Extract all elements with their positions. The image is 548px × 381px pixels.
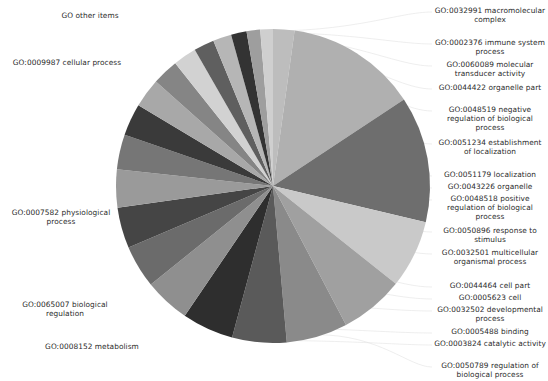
pie-label: GO:0032501 multicellular organismal proc…	[434, 248, 546, 266]
pie-label: GO:0048518 positive regulation of biolog…	[434, 194, 546, 222]
pie-label: GO other items	[42, 11, 138, 20]
pie-label: GO:0048519 negative regulation of biolog…	[434, 105, 546, 133]
pie-label: GO:0044422 organelle part	[434, 83, 546, 92]
pie-chart-page: GO other itemsGO:0009987 cellular proces…	[0, 0, 548, 381]
pie-label: GO:0043226 organelle	[434, 182, 546, 191]
pie-label: GO:0005488 binding	[434, 327, 546, 336]
pie-slices	[116, 29, 430, 343]
pie-label: GO:0008152 metabolism	[38, 342, 146, 351]
pie-label: GO:0032502 developmental process	[434, 305, 546, 323]
pie-label: GO:0065007 biological regulation	[6, 300, 124, 318]
pie-label: GO:0051234 establishment of localization	[434, 138, 546, 156]
pie-label: GO:0032991 macromolecular complex	[434, 6, 546, 24]
pie-label: GO:0051179 localization	[434, 170, 546, 179]
leader-line	[267, 12, 432, 31]
pie-label: GO:0007582 physiological process	[2, 208, 120, 226]
pie-label: GO:0009987 cellular process	[8, 58, 126, 67]
pie-label: GO:0044464 cell part	[434, 281, 546, 290]
pie-label: GO:0050789 regulation of biological proc…	[434, 361, 546, 379]
pie-label: GO:0005623 cell	[434, 293, 546, 302]
pie-label: GO:0002376 immune system process	[434, 38, 546, 56]
pie-label: GO:0003824 catalytic activity	[434, 339, 546, 348]
pie-label: GO:0060089 molecular transducer activity	[434, 60, 546, 78]
leader-line	[317, 335, 432, 367]
go-term-pie-chart: GO other itemsGO:0009987 cellular proces…	[0, 0, 548, 381]
pie-label: GO:0050896 response to stimulus	[434, 226, 546, 244]
